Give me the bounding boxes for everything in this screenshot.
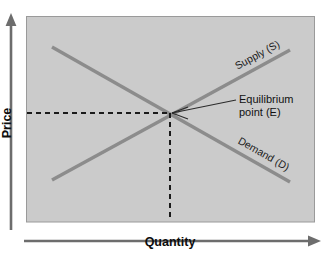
price-axis: Price xyxy=(0,13,16,230)
price-axis-arrowhead xyxy=(6,13,17,26)
quantity-axis: Quantity xyxy=(24,235,321,249)
price-axis-label: Price xyxy=(0,108,14,139)
quantity-axis-arrowhead xyxy=(308,236,321,247)
equilibrium-label-line1: Equilibrium xyxy=(239,93,293,105)
quantity-axis-label: Quantity xyxy=(145,235,196,249)
equilibrium-label-line2: point (E) xyxy=(239,106,281,118)
chart-canvas: Price Quantity Demand (D) Supply (S) xyxy=(0,0,324,256)
supply-demand-figure: Price Quantity Demand (D) Supply (S) xyxy=(0,0,324,256)
